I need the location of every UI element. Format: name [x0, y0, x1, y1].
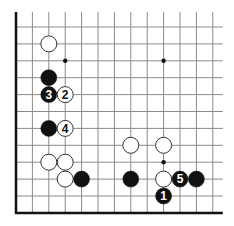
white-stone — [41, 154, 57, 170]
white-stone: 2 — [57, 87, 73, 103]
black-stone-icon — [123, 171, 139, 187]
move-number-label: 1 — [160, 189, 167, 203]
black-stone-icon — [74, 171, 90, 187]
black-stone — [188, 171, 204, 187]
black-stone: 1 — [156, 188, 172, 204]
go-board: 32451 — [0, 0, 234, 226]
white-stone — [57, 154, 73, 170]
white-stone-icon — [156, 171, 172, 187]
black-stone — [41, 70, 57, 86]
white-stone — [156, 137, 172, 153]
white-stone-icon — [41, 36, 57, 52]
star-point-icon — [63, 59, 67, 63]
star-point-icon — [161, 59, 165, 63]
white-stone-icon — [156, 137, 172, 153]
black-stone — [41, 120, 57, 136]
move-number-label: 4 — [62, 122, 69, 136]
go-board-diagram: 32451 — [0, 0, 234, 226]
white-stone — [57, 171, 73, 187]
white-stone-icon — [57, 171, 73, 187]
white-stone-icon — [41, 154, 57, 170]
white-stone — [41, 36, 57, 52]
black-stone-icon — [41, 70, 57, 86]
white-stone — [156, 171, 172, 187]
white-stone-icon — [57, 154, 73, 170]
black-stone — [123, 171, 139, 187]
white-stone-icon — [123, 137, 139, 153]
black-stone-icon — [41, 120, 57, 136]
white-stone — [123, 137, 139, 153]
black-stone: 5 — [172, 171, 188, 187]
star-point-icon — [161, 160, 165, 164]
white-stone: 4 — [57, 120, 73, 136]
move-number-label: 5 — [177, 172, 184, 186]
black-stone — [74, 171, 90, 187]
move-number-label: 3 — [45, 88, 52, 102]
black-stone: 3 — [41, 87, 57, 103]
black-stone-icon — [188, 171, 204, 187]
move-number-label: 2 — [62, 88, 69, 102]
